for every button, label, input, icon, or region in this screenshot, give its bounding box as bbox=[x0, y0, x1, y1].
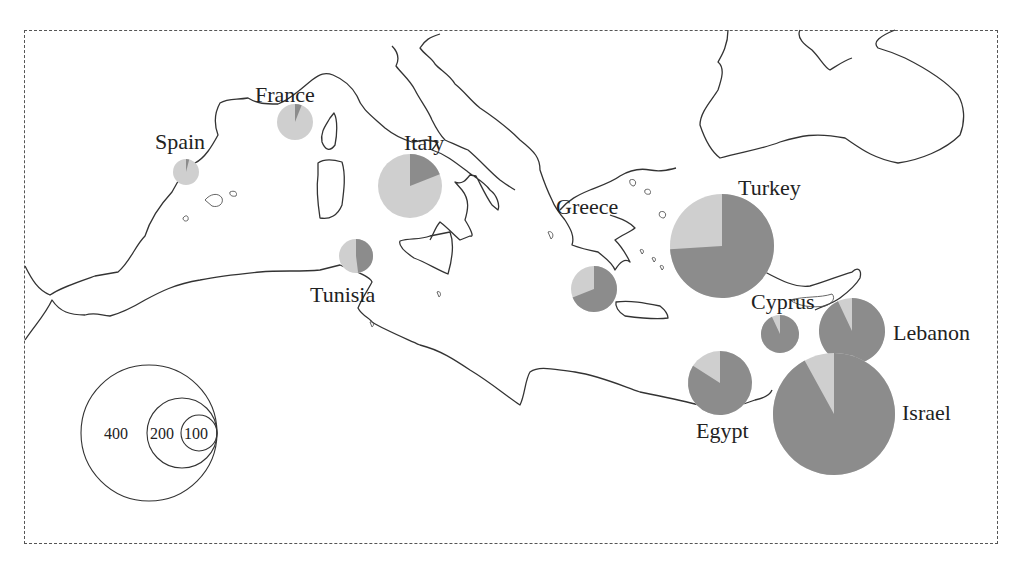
coast-greece bbox=[560, 168, 676, 270]
legend-label-100: 100 bbox=[184, 425, 208, 442]
country-label-turkey: Turkey bbox=[738, 177, 801, 199]
mediterranean-map: 400200100 bbox=[0, 0, 1019, 571]
country-label-france: France bbox=[255, 84, 315, 106]
island-malta bbox=[437, 292, 440, 297]
country-label-spain: Spain bbox=[155, 131, 205, 153]
island-lesbos bbox=[659, 211, 665, 218]
coast-corsica bbox=[322, 113, 337, 149]
island-menorca bbox=[230, 191, 237, 196]
coast-crete bbox=[616, 301, 668, 318]
coastlines bbox=[25, 30, 964, 407]
country-label-cyprus: Cyprus bbox=[751, 291, 815, 313]
island-aegean-3 bbox=[640, 249, 643, 254]
legend-label-200: 200 bbox=[150, 425, 174, 442]
pie-slice-dark bbox=[761, 315, 799, 353]
island-ionian bbox=[548, 232, 553, 239]
pie-tunisia bbox=[339, 239, 373, 273]
legend-label-400: 400 bbox=[104, 425, 128, 442]
country-label-israel: Israel bbox=[902, 402, 951, 424]
pie-spain bbox=[173, 159, 199, 185]
pie-cyprus bbox=[761, 315, 799, 353]
island-aegean-5 bbox=[660, 265, 663, 270]
pie-france bbox=[277, 104, 313, 140]
size-legend: 400200100 bbox=[81, 365, 217, 501]
island-aegean-4 bbox=[652, 257, 655, 262]
island-aegean-2 bbox=[645, 189, 651, 194]
island-ibiza bbox=[183, 216, 188, 221]
coast-sicily bbox=[400, 232, 453, 274]
pie-italy bbox=[378, 154, 442, 218]
pie-greece bbox=[571, 266, 617, 312]
country-label-italy: Italy bbox=[404, 132, 444, 154]
coast-north-africa bbox=[25, 265, 772, 407]
island-mallorca bbox=[205, 194, 222, 206]
country-label-egypt: Egypt bbox=[696, 420, 749, 442]
country-label-tunisia: Tunisia bbox=[310, 284, 375, 306]
country-label-greece: Greece bbox=[556, 196, 618, 218]
pie-turkey bbox=[670, 194, 774, 298]
pie-slice-dark bbox=[356, 239, 373, 273]
pie-israel bbox=[773, 353, 895, 475]
island-aegean-1 bbox=[630, 179, 636, 186]
pie-egypt bbox=[688, 351, 752, 415]
country-label-lebanon: Lebanon bbox=[893, 322, 970, 344]
coast-black-sea bbox=[700, 30, 964, 163]
coast-sardinia bbox=[317, 160, 344, 219]
